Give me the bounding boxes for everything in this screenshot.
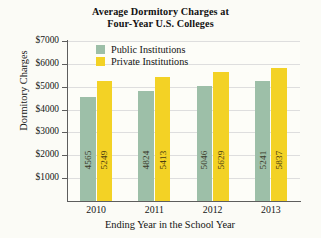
bar: 5413	[155, 77, 171, 201]
x-axis-tick-label: 2010	[66, 204, 126, 215]
bar-value-label: 5629	[216, 150, 226, 169]
y-axis-tick-label: $1000	[13, 172, 59, 182]
legend: Public Institutions Private Institutions	[96, 44, 188, 68]
x-axis-title: Ending Year in the School Year	[40, 219, 300, 230]
legend-item-private: Private Institutions	[96, 56, 188, 67]
bar: 5249	[97, 81, 113, 201]
bar: 5046	[197, 86, 213, 201]
legend-swatch-private-icon	[96, 57, 105, 66]
bar-value-label: 4824	[141, 150, 151, 169]
bar: 5241	[255, 81, 271, 201]
bar-value-label: 5413	[158, 150, 168, 169]
legend-item-public: Public Institutions	[96, 44, 188, 55]
chart-figure: Average Dormitory Charges at Four-Year U…	[0, 0, 321, 238]
bar: 4824	[138, 91, 154, 201]
bar-value-label: 5046	[199, 150, 209, 169]
x-axis-line	[67, 201, 301, 202]
bar-value-label: 5837	[274, 150, 284, 169]
x-axis-tick-label: 2013	[241, 204, 301, 215]
chart-title-line-1: Average Dormitory Charges at	[0, 6, 321, 18]
gridline	[68, 41, 300, 42]
legend-label-private: Private Institutions	[111, 56, 188, 67]
bar-value-label: 5241	[258, 150, 268, 169]
y-axis-line	[67, 40, 68, 202]
bar-value-label: 5249	[99, 150, 109, 169]
bar-value-label: 4565	[83, 150, 93, 169]
chart-title: Average Dormitory Charges at Four-Year U…	[0, 6, 321, 30]
legend-swatch-public-icon	[96, 45, 105, 54]
x-axis-tick-label: 2012	[183, 204, 243, 215]
bar: 5837	[271, 68, 287, 201]
bar: 5629	[213, 72, 229, 201]
y-axis-title: Dormitory Charges	[18, 21, 29, 161]
x-axis-tick-label: 2011	[124, 204, 184, 215]
chart-title-line-2: Four-Year U.S. Colleges	[0, 18, 321, 30]
legend-label-public: Public Institutions	[111, 44, 185, 55]
bar: 4565	[80, 97, 96, 201]
